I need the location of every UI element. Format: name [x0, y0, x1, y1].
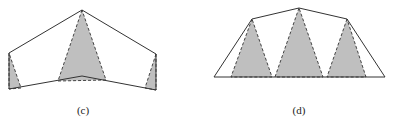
diagram-canvas: (c) (d) — [0, 0, 394, 126]
figure-c-shaded-triangles — [9, 10, 156, 90]
shaded-triangle — [327, 19, 366, 77]
figure-c-caption: (c) — [77, 104, 90, 117]
shaded-triangle — [58, 10, 106, 81]
figure-d: (d) — [214, 8, 385, 117]
figure-d-caption: (d) — [293, 104, 306, 117]
shaded-triangle — [9, 53, 21, 89]
figure-c: (c) — [9, 10, 156, 117]
shaded-triangle — [231, 19, 272, 77]
shaded-triangle — [145, 54, 156, 90]
shaded-triangle — [275, 8, 323, 77]
